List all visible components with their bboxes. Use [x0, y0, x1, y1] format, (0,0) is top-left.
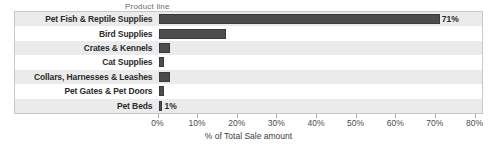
bar-track — [159, 26, 475, 40]
x-tick-label: 0% — [151, 118, 163, 128]
bar-track — [159, 55, 475, 69]
x-axis-title: % of Total Sale amount — [14, 131, 483, 141]
bar-category-label: Crates & Kennels — [84, 43, 153, 53]
x-tick-label: 80% — [466, 118, 483, 128]
bar-track — [159, 70, 475, 84]
bar-track — [159, 84, 475, 98]
table-row[interactable]: Cat Supplies — [15, 55, 482, 69]
bar[interactable] — [159, 29, 226, 39]
bar-category-label: Pet Fish & Reptile Supplies — [45, 14, 152, 24]
x-tick-label: 50% — [347, 118, 364, 128]
bar-category-label: Pet Gates & Pet Doors — [64, 86, 152, 96]
table-row[interactable]: Collars, Harnesses & Leashes — [15, 70, 482, 84]
bar-value-label: 71% — [440, 14, 459, 24]
bar-rows: Pet Fish & Reptile Supplies71%Bird Suppl… — [15, 12, 482, 113]
bar[interactable] — [159, 57, 165, 67]
table-row[interactable]: Pet Beds1% — [15, 99, 482, 113]
bar[interactable] — [159, 14, 440, 24]
bar-track: 71% — [159, 12, 475, 26]
bar-chart: Product line Pet Fish & Reptile Supplies… — [0, 0, 496, 150]
bar[interactable] — [159, 72, 171, 82]
plot-frame: Pet Fish & Reptile Supplies71%Bird Suppl… — [14, 11, 483, 114]
table-row[interactable]: Crates & Kennels — [15, 41, 482, 55]
bar-track: 1% — [159, 99, 475, 113]
bar-value-label: 1% — [162, 101, 176, 111]
y-axis-header: Product line — [125, 2, 170, 11]
bar-category-label: Cat Supplies — [102, 57, 152, 67]
x-tick-label: 10% — [189, 118, 206, 128]
bar-category-label: Collars, Harnesses & Leashes — [34, 72, 153, 82]
x-tick-label: 30% — [268, 118, 285, 128]
x-tick-label: 40% — [307, 118, 324, 128]
table-row[interactable]: Bird Supplies — [15, 26, 482, 40]
bar[interactable] — [159, 86, 165, 96]
x-axis: 0%10%20%30%40%50%60%70%80% % of Total Sa… — [14, 114, 483, 150]
table-row[interactable]: Pet Gates & Pet Doors — [15, 84, 482, 98]
bar-track — [159, 41, 475, 55]
x-tick-label: 60% — [387, 118, 404, 128]
bar-category-label: Pet Beds — [117, 101, 153, 111]
bar-category-label: Bird Supplies — [99, 29, 153, 39]
x-tick-label: 70% — [426, 118, 443, 128]
bar[interactable] — [159, 43, 171, 53]
table-row[interactable]: Pet Fish & Reptile Supplies71% — [15, 12, 482, 26]
x-tick-label: 20% — [228, 118, 245, 128]
